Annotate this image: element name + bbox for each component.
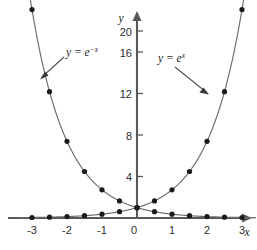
left-curve-label: y = e−x: [65, 45, 99, 59]
data-point-marker: [239, 215, 244, 220]
data-point-marker: [239, 7, 244, 12]
x-tick-label-neg2: -2: [62, 224, 72, 236]
data-point-marker: [29, 7, 34, 12]
data-point-marker: [222, 215, 227, 220]
data-point-marker: [64, 139, 69, 144]
right-curve-label-base: y = e: [157, 52, 182, 65]
data-point-marker: [187, 213, 192, 218]
x-axis-label: x: [243, 226, 250, 238]
y-axis-label: y: [117, 12, 124, 25]
exponential-functions-figure: 20 16 12 8 4 -3 -2 -1 0 1 2 3 y x y = e−…: [0, 0, 257, 250]
right-label-pointer: [175, 67, 209, 95]
data-point-marker: [47, 89, 52, 94]
x-tick-label-neg1: -1: [97, 224, 107, 236]
y-tick-label-20: 20: [120, 26, 132, 38]
data-point-marker: [152, 198, 157, 203]
data-point-marker: [99, 187, 104, 192]
data-point-marker: [152, 209, 157, 214]
data-point-marker: [47, 215, 52, 220]
right-curve-label-exponent: x: [181, 51, 186, 60]
y-axis-arrowhead: [133, 11, 142, 21]
x-tick-label-2: 2: [204, 224, 210, 236]
data-point-marker: [204, 139, 209, 144]
data-point-marker: [117, 209, 122, 214]
left-curve-label-exponent: −x: [90, 45, 99, 54]
data-point-marker: [82, 169, 87, 174]
x-tick-label-0: 0: [131, 224, 137, 236]
left-curve-label-base: y = e: [65, 46, 90, 59]
plot-canvas: 20 16 12 8 4 -3 -2 -1 0 1 2 3 y x y = e−…: [0, 0, 257, 250]
data-point-marker: [169, 187, 174, 192]
x-tick-label-1: 1: [169, 224, 175, 236]
data-point-marker: [64, 214, 69, 219]
data-point-marker: [169, 212, 174, 217]
data-point-marker: [117, 198, 122, 203]
data-point-marker: [82, 213, 87, 218]
data-point-marker: [99, 212, 104, 217]
y-tick-label-4: 4: [126, 171, 132, 183]
data-point-marker: [29, 215, 34, 220]
x-tick-label-neg3: -3: [27, 224, 37, 236]
data-point-marker: [204, 214, 209, 219]
data-point-marker: [134, 205, 139, 210]
y-tick-label-12: 12: [120, 88, 132, 100]
curve-y-equals-e-to-minus-x: [30, 0, 256, 218]
data-point-marker: [187, 169, 192, 174]
y-tick-label-8: 8: [126, 130, 132, 142]
right-curve-label: y = ex: [157, 51, 186, 65]
data-point-marker: [222, 89, 227, 94]
y-tick-label-16: 16: [120, 47, 132, 59]
